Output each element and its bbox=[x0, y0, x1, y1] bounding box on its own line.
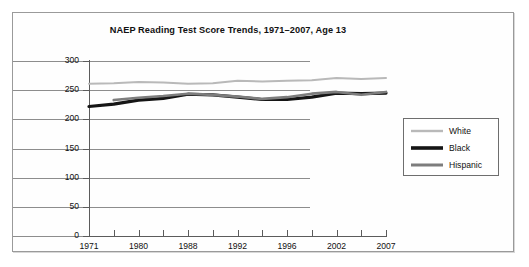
chart-figure: NAEP Reading Test Score Trends, 1971–200… bbox=[0, 0, 529, 267]
legend-label-black: Black bbox=[449, 143, 470, 153]
x-tick-mark-2007 bbox=[386, 230, 387, 237]
y-tick-label-250: 250 bbox=[39, 84, 79, 94]
legend-swatch-black-icon bbox=[410, 142, 444, 154]
x-tick-label-1992: 1992 bbox=[216, 241, 260, 251]
series-plot bbox=[89, 61, 386, 236]
y-tick-label-100: 100 bbox=[39, 172, 79, 182]
legend-label-white: White bbox=[449, 126, 471, 136]
y-tick-label-200: 200 bbox=[39, 113, 79, 123]
x-tick-label-2007: 2007 bbox=[364, 241, 408, 251]
legend-item-white: White bbox=[410, 123, 494, 139]
legend-swatch-hispanic-icon bbox=[410, 159, 444, 171]
figure-frame: NAEP Reading Test Score Trends, 1971–200… bbox=[12, 12, 514, 252]
legend-swatch-white-icon bbox=[410, 125, 444, 137]
legend-item-hispanic: Hispanic bbox=[410, 157, 494, 173]
y-tick-label-0: 0 bbox=[39, 230, 79, 240]
chart-legend: White Black Hispanic bbox=[403, 118, 499, 176]
x-tick-label-1988: 1988 bbox=[166, 241, 210, 251]
y-tick-label-50: 50 bbox=[39, 201, 79, 211]
series-line-black bbox=[89, 93, 386, 106]
x-tick-label-1980: 1980 bbox=[117, 241, 161, 251]
x-tick-label-2002: 2002 bbox=[315, 241, 359, 251]
legend-label-hispanic: Hispanic bbox=[449, 160, 482, 170]
x-tick-label-1996: 1996 bbox=[265, 241, 309, 251]
series-line-white bbox=[89, 78, 386, 84]
x-tick-label-1971: 1971 bbox=[67, 241, 111, 251]
y-tick-label-300: 300 bbox=[39, 55, 79, 65]
legend-item-black: Black bbox=[410, 140, 494, 156]
chart-title: NAEP Reading Test Score Trends, 1971–200… bbox=[13, 25, 443, 35]
y-tick-label-150: 150 bbox=[39, 143, 79, 153]
